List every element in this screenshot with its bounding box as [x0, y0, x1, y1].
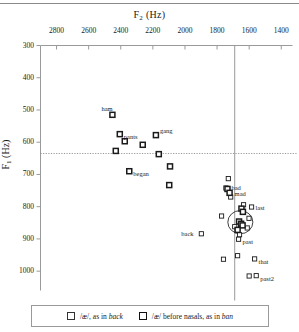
legend-item-nasal: /æ/ before nasals, as in ban — [139, 312, 233, 321]
data-point-marker — [199, 232, 203, 236]
plot-canvas — [0, 0, 299, 332]
y-tick-label-300: 300 — [8, 41, 34, 50]
data-point-label-ham: ham — [101, 105, 112, 112]
formant-scatter-figure: F2 (Hz) F1 (Hz) 280026002400220020001800… — [0, 0, 299, 332]
x-tick-label-1600: 1600 — [232, 26, 266, 35]
x-tick-label-2000: 2000 — [168, 26, 202, 35]
y-tick-label-1000: 1000 — [8, 266, 34, 275]
x-tick-label-2400: 2400 — [104, 26, 138, 35]
data-point-marker — [226, 177, 230, 181]
data-point-label-pants: pants — [124, 133, 138, 140]
y-tick-label-800: 800 — [8, 202, 34, 211]
y-tick-label-600: 600 — [8, 137, 34, 146]
data-point-marker — [254, 274, 258, 278]
y-tick-label-400: 400 — [8, 73, 34, 82]
data-point-label-back: back — [181, 230, 193, 237]
data-point-marker — [113, 148, 118, 153]
y-tick-label-500: 500 — [8, 105, 34, 114]
y-tick-label-900: 900 — [8, 234, 34, 243]
y-tick-label-700: 700 — [8, 169, 34, 178]
data-point-marker — [156, 152, 161, 157]
data-point-label-past2: past2 — [260, 275, 274, 282]
data-point-marker — [167, 183, 172, 188]
legend: /æ/, as in back /æ/ before nasals, as in… — [31, 305, 269, 327]
data-point-marker — [117, 132, 122, 137]
open-square-thin-icon — [67, 312, 75, 320]
data-point-label-last: last — [256, 204, 265, 211]
legend-item-back-label: /æ/, as in back — [80, 312, 123, 321]
x-tick-label-2800: 2800 — [40, 26, 74, 35]
data-point-marker — [127, 169, 132, 174]
x-tick-label-1800: 1800 — [200, 26, 234, 35]
x-tick-label-1400: 1400 — [264, 26, 298, 35]
data-point-marker — [153, 133, 158, 138]
legend-item-nasal-label: /æ/ before nasals, as in ban — [152, 312, 233, 321]
data-point-marker — [240, 209, 245, 214]
data-point-marker — [236, 254, 240, 258]
x-tick-label-2200: 2200 — [136, 26, 170, 35]
data-point-marker — [253, 257, 257, 261]
open-square-thick-icon — [139, 312, 147, 320]
x-tick-label-2600: 2600 — [72, 26, 106, 35]
data-point-label-gang: gang — [160, 127, 173, 134]
data-point-marker — [219, 214, 223, 218]
data-point-marker — [235, 227, 240, 232]
data-point-marker — [110, 112, 115, 117]
data-point-label-mad: mad — [235, 190, 246, 197]
data-point-marker — [227, 190, 232, 195]
data-point-marker — [247, 216, 251, 220]
data-point-marker — [247, 274, 251, 278]
data-point-marker — [140, 142, 145, 147]
data-point-label-began: began — [133, 170, 149, 177]
data-point-marker — [236, 237, 240, 241]
legend-item-back: /æ/, as in back — [67, 312, 123, 321]
data-point-marker — [249, 205, 253, 209]
data-point-marker — [237, 233, 241, 237]
data-point-marker — [168, 164, 173, 169]
data-point-label-past: past — [243, 238, 253, 245]
data-point-label-that: that — [259, 258, 269, 265]
data-point-marker — [221, 257, 225, 261]
